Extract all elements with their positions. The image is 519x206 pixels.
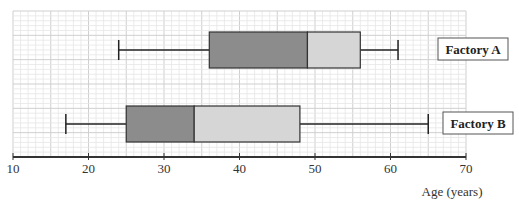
x-tick-label: 60 bbox=[384, 161, 397, 176]
box-plots: Factory AFactory B bbox=[66, 32, 513, 142]
x-tick-label: 70 bbox=[460, 161, 473, 176]
x-axis-title: Age (years) bbox=[422, 184, 483, 199]
box-upper-half bbox=[307, 32, 360, 68]
box-plot-factory-b: Factory B bbox=[66, 106, 513, 142]
series-label-text: Factory A bbox=[445, 42, 501, 57]
box-upper-half bbox=[194, 106, 300, 142]
series-label-text: Factory B bbox=[450, 116, 506, 131]
x-tick-label: 30 bbox=[158, 161, 171, 176]
box-lower-half bbox=[126, 106, 194, 142]
box-plot-factory-a: Factory A bbox=[119, 32, 508, 68]
box-lower-half bbox=[209, 32, 307, 68]
x-axis: 10203040506070 bbox=[7, 153, 473, 176]
x-tick-label: 40 bbox=[233, 161, 246, 176]
x-tick-label: 20 bbox=[82, 161, 95, 176]
x-tick-label: 50 bbox=[309, 161, 322, 176]
series-label: Factory B bbox=[443, 112, 513, 134]
x-tick-label: 10 bbox=[7, 161, 20, 176]
box-plot-chart: Factory AFactory B 10203040506070 Age (y… bbox=[0, 0, 519, 206]
series-label: Factory A bbox=[438, 38, 508, 60]
